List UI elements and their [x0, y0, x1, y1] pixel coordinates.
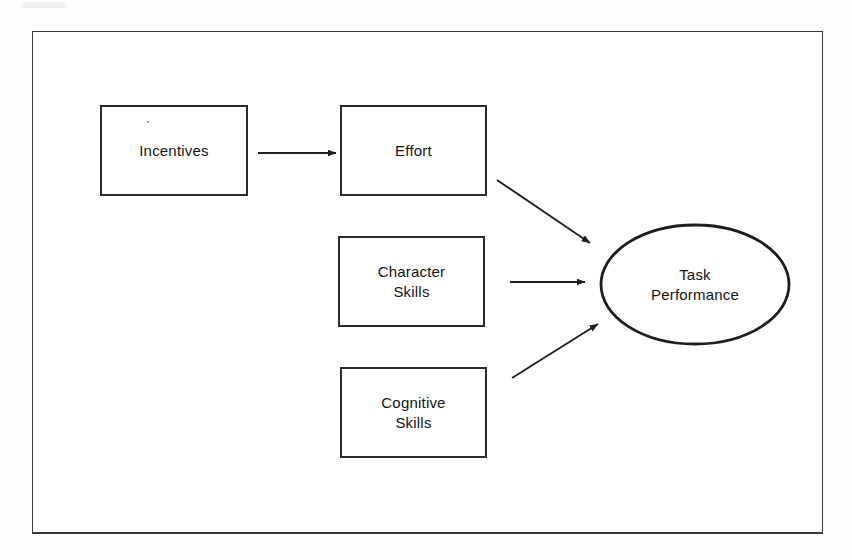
- scan-speck: [147, 121, 149, 123]
- scan-artifact-top: [22, 2, 66, 8]
- node-character-skills-label: Character Skills: [378, 262, 446, 302]
- node-effort-label: Effort: [395, 141, 432, 161]
- node-incentives-label: Incentives: [139, 141, 209, 161]
- node-effort[interactable]: Effort: [340, 105, 487, 196]
- node-incentives[interactable]: Incentives: [100, 105, 248, 196]
- node-character-skills[interactable]: Character Skills: [338, 236, 485, 327]
- node-task-performance-label: Task Performance: [651, 265, 739, 305]
- figure-canvas: Incentives Effort Character Skills Cogni…: [0, 0, 852, 560]
- node-task-performance[interactable]: Task Performance: [600, 224, 790, 345]
- node-cognitive-skills[interactable]: Cognitive Skills: [340, 367, 487, 458]
- node-cognitive-skills-label: Cognitive Skills: [381, 393, 445, 433]
